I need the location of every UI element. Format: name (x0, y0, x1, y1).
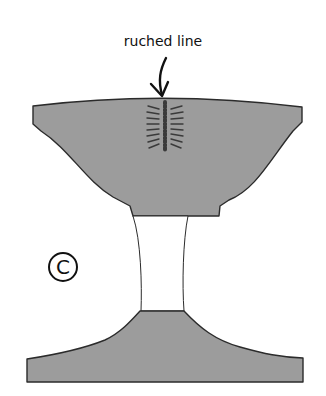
arrow-down-icon (151, 58, 168, 96)
upper-bodice-piece (33, 98, 302, 216)
figure-marker-letter: C (56, 255, 70, 279)
figure-marker-c: C (49, 253, 77, 281)
waist-panel (133, 216, 188, 311)
ruched-line-label: ruched line (124, 33, 202, 49)
lower-skirt-piece (27, 311, 303, 382)
pattern-diagram: ruched line (0, 0, 326, 396)
